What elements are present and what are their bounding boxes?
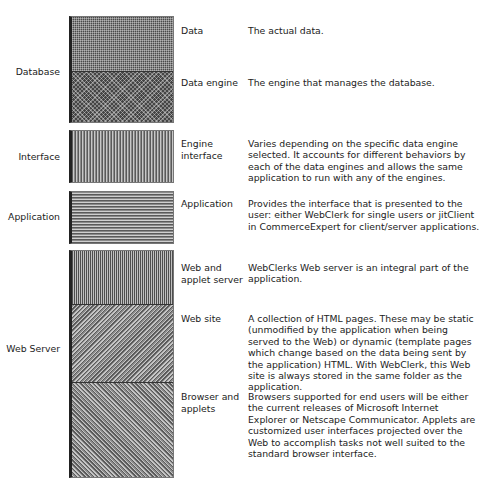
component-description: The actual data. xyxy=(248,25,480,36)
web-applet-server-layer xyxy=(72,251,173,304)
component-label: Data xyxy=(181,25,245,37)
component-label: Data engine xyxy=(181,77,245,89)
component-description: Browsers supported for end users will be… xyxy=(248,391,480,459)
web-server-block xyxy=(69,250,174,478)
group-label-interface: Interface xyxy=(0,151,60,162)
database-block xyxy=(69,16,174,123)
group-label-web-server: Web Server xyxy=(0,343,60,354)
component-label: Browser and applets xyxy=(181,391,243,414)
component-description: WebClerks Web server is an integral part… xyxy=(248,262,480,285)
component-label: Engine interface xyxy=(181,138,231,161)
application-block xyxy=(69,191,174,244)
component-description: Varies depending on the specific data en… xyxy=(248,138,480,184)
component-description: A collection of HTML pages. These may be… xyxy=(248,313,480,393)
component-description: Provides the interface that is presented… xyxy=(248,198,480,232)
group-label-database: Database xyxy=(0,66,60,77)
web-site-layer xyxy=(72,304,173,383)
group-label-application: Application xyxy=(0,211,60,222)
component-label: Web site xyxy=(181,313,245,325)
engine-interface-layer xyxy=(72,131,173,182)
data-engine-layer xyxy=(72,71,173,122)
component-label: Application xyxy=(181,198,245,210)
component-description: The engine that manages the database. xyxy=(248,77,480,88)
component-label: Web and applet server xyxy=(181,262,243,285)
data-layer xyxy=(72,17,173,71)
browser-applets-layer xyxy=(72,382,173,477)
application-layer xyxy=(72,192,173,243)
interface-block xyxy=(69,130,174,183)
